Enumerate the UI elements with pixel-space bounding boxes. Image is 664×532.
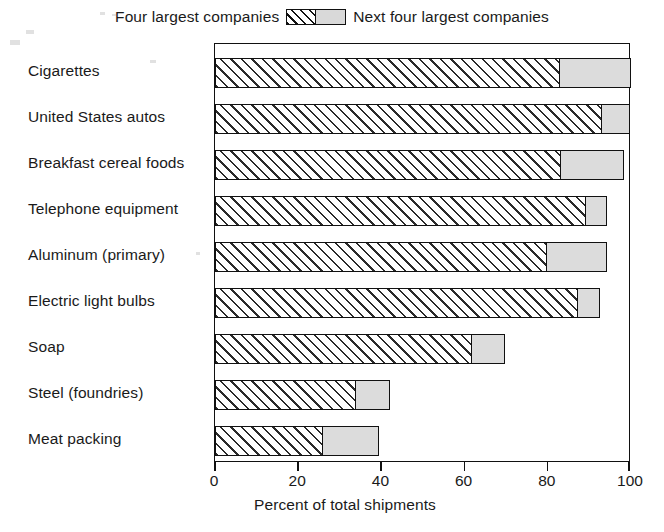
bar-segment-next-four-largest	[355, 380, 390, 410]
x-tick	[628, 462, 630, 471]
bar-segment-four-largest	[215, 380, 355, 410]
x-tick-label: 20	[289, 472, 306, 490]
bar-segment-next-four-largest	[577, 288, 600, 318]
hatch-swatch-icon	[287, 10, 315, 24]
bar-row	[215, 242, 607, 272]
bar-segment-next-four-largest	[471, 334, 504, 364]
category-label: Telephone equipment	[0, 200, 198, 218]
x-tick	[380, 462, 382, 471]
category-label: Steel (foundries)	[0, 384, 198, 402]
bar-segment-four-largest	[215, 196, 585, 226]
category-label: Aluminum (primary)	[0, 246, 198, 264]
category-label: Meat packing	[0, 430, 198, 448]
bar-segment-four-largest	[215, 58, 559, 88]
bar-row	[215, 104, 630, 134]
bar-segment-next-four-largest	[559, 58, 631, 88]
bar-segment-next-four-largest	[322, 426, 379, 456]
bar-segment-four-largest	[215, 150, 560, 180]
x-tick	[464, 462, 466, 471]
bar-segment-next-four-largest	[585, 196, 607, 226]
bar-row	[215, 288, 600, 318]
x-axis-title: Percent of total shipments	[0, 496, 664, 514]
bar-segment-four-largest	[215, 334, 471, 364]
x-tick-label: 0	[210, 472, 219, 490]
x-tick	[547, 462, 549, 471]
legend-label-four-largest: Four largest companies	[115, 8, 279, 26]
category-label: Electric light bulbs	[0, 292, 198, 310]
bar-row	[215, 196, 607, 226]
category-label: Breakfast cereal foods	[0, 154, 198, 172]
legend-swatches	[286, 9, 346, 25]
bar-segment-four-largest	[215, 104, 601, 134]
bar-row	[215, 426, 379, 456]
solid-swatch-icon	[315, 10, 345, 24]
bar-segment-next-four-largest	[560, 150, 624, 180]
bar-series-group	[215, 44, 629, 461]
bar-row	[215, 150, 624, 180]
chart-legend: Four largest companies Next four largest…	[0, 8, 664, 26]
category-label: United States autos	[0, 108, 198, 126]
x-tick-label: 80	[538, 472, 555, 490]
scan-artifact	[26, 30, 34, 34]
bar-segment-four-largest	[215, 288, 577, 318]
bar-segment-four-largest	[215, 242, 546, 272]
category-label: Soap	[0, 338, 198, 356]
bar-segment-next-four-largest	[601, 104, 630, 134]
x-tick	[214, 462, 216, 471]
x-tick-label: 60	[455, 472, 472, 490]
legend-label-next-four-largest: Next four largest companies	[353, 8, 549, 26]
bar-row	[215, 58, 631, 88]
plot-area	[214, 43, 630, 462]
bar-segment-next-four-largest	[546, 242, 607, 272]
bar-row	[215, 380, 390, 410]
x-tick-label: 100	[617, 472, 643, 490]
bar-segment-four-largest	[215, 426, 322, 456]
x-tick-label: 40	[372, 472, 389, 490]
category-axis-labels: CigarettesUnited States autosBreakfast c…	[0, 43, 206, 462]
x-tick	[297, 462, 299, 471]
bar-row	[215, 334, 505, 364]
category-label: Cigarettes	[0, 62, 198, 80]
